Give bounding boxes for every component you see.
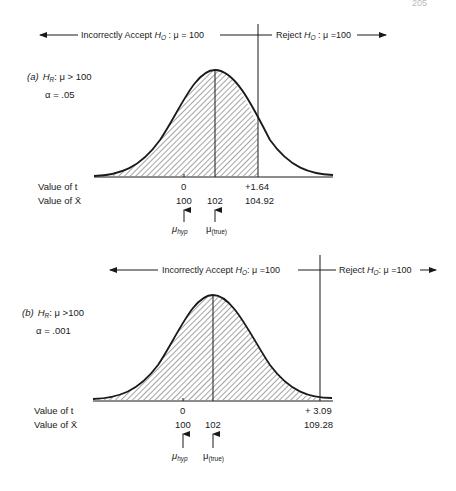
- page-number: 205: [412, 0, 427, 8]
- panel-a: Incorrectly Accept HO : μ = 100 Reject H…: [27, 24, 386, 236]
- accept-region-label: Incorrectly Accept HO : μ = 100: [81, 30, 204, 41]
- t-row-label: Value of t: [38, 181, 78, 192]
- xbar-row-label: Value of X̄: [38, 195, 82, 206]
- mu-hyp-label: μhyp: [171, 450, 188, 463]
- t-zero: 0: [180, 405, 185, 416]
- xbar-critical: 104.92: [245, 195, 274, 206]
- panel-b-alpha: α = .001: [36, 325, 71, 336]
- t-row-label: Value of t: [34, 405, 74, 416]
- t-zero: 0: [181, 181, 186, 192]
- xbar-hyp: 100: [175, 419, 191, 430]
- reject-region-label: Reject HO : μ =100: [276, 30, 351, 41]
- t-critical: +1.64: [245, 181, 269, 192]
- xbar-hyp: 100: [176, 195, 192, 206]
- xbar-true: 102: [205, 419, 221, 430]
- t-critical: + 3.09: [305, 405, 332, 416]
- mu-true-label: μ(true): [206, 223, 227, 236]
- xbar-true: 102: [207, 195, 223, 206]
- reject-region-label: Reject HO: μ =100: [339, 265, 412, 276]
- panel-b-hypothesis: (b)HR: μ >100: [22, 307, 84, 319]
- mu-hyp-label: μhyp: [171, 223, 188, 236]
- accept-region-label: Incorrectly Accept HO: μ =100: [162, 265, 280, 276]
- xbar-critical: 109.28: [304, 419, 333, 430]
- panel-a-alpha: α = .05: [45, 89, 75, 100]
- beta-region: [94, 70, 258, 176]
- xbar-row-label: Value of X̄: [34, 419, 78, 430]
- beta-region: [93, 295, 320, 400]
- panel-a-hypothesis: (a)HR: μ > 100: [27, 71, 92, 83]
- power-diagram: 205 Incorrectly Accept HO : μ = 100 Reje…: [0, 0, 456, 491]
- mu-true-label: μ(true): [203, 450, 224, 463]
- panel-b: Incorrectly Accept HO: μ =100 Reject HO:…: [22, 255, 436, 463]
